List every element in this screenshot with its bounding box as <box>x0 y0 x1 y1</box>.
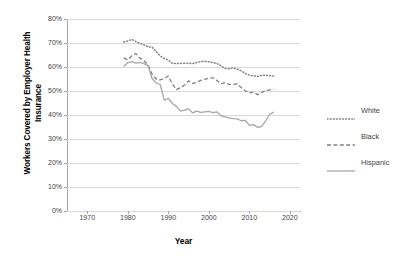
y-tick-label: 80% <box>22 15 62 22</box>
y-tick-label: 0% <box>22 207 62 214</box>
y-tick-label: 30% <box>22 135 62 142</box>
x-tick-label: 1970 <box>67 214 107 221</box>
y-tick-mark <box>64 67 67 68</box>
y-tick-mark <box>64 187 67 188</box>
y-tick-mark <box>64 163 67 164</box>
y-tick-mark <box>64 139 67 140</box>
y-tick-label: 20% <box>22 159 62 166</box>
x-tick-label: 2020 <box>270 214 310 221</box>
x-tick-label: 1990 <box>148 214 188 221</box>
y-tick-mark <box>64 19 67 20</box>
legend-item-hispanic: Hispanic <box>327 156 413 182</box>
series-line-hispanic <box>124 62 274 128</box>
legend-item-black: Black <box>327 130 413 156</box>
y-tick-mark <box>64 115 67 116</box>
y-tick-mark <box>64 211 67 212</box>
y-tick-label: 70% <box>22 39 62 46</box>
x-axis-title: Year <box>67 236 300 246</box>
y-tick-label: 60% <box>22 63 62 70</box>
series-line-black <box>124 54 274 95</box>
legend-label-hispanic: Hispanic <box>361 158 389 167</box>
x-tick-label: 2010 <box>229 214 269 221</box>
y-tick-label: 50% <box>22 87 62 94</box>
y-tick-label: 10% <box>22 183 62 190</box>
legend-item-white: White <box>327 104 413 130</box>
line-chart: Workers Covered by Employer Health Insur… <box>0 0 413 259</box>
y-tick-mark <box>64 43 67 44</box>
x-tick-label: 2000 <box>189 214 229 221</box>
series-line-white <box>124 39 274 76</box>
y-tick-mark <box>64 91 67 92</box>
legend-label-white: White <box>361 106 380 115</box>
legend-swatch-white <box>327 109 355 117</box>
legend-label-black: Black <box>361 132 379 141</box>
legend-swatch-black <box>327 135 355 143</box>
chart-legend: White Black Hispanic <box>327 104 413 182</box>
x-tick-label: 1980 <box>108 214 148 221</box>
legend-swatch-hispanic <box>327 161 355 169</box>
y-tick-label: 40% <box>22 111 62 118</box>
